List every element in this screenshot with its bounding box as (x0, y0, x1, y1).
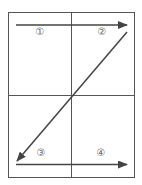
quadrant-4-label: ④ (97, 147, 106, 158)
quadrant-3-label: ③ (37, 147, 46, 158)
quadrant-1-label: ① (36, 26, 45, 37)
z-pattern-diagram: ① ② ③ ④ (0, 0, 142, 185)
quadrant-2-label: ② (98, 26, 107, 37)
